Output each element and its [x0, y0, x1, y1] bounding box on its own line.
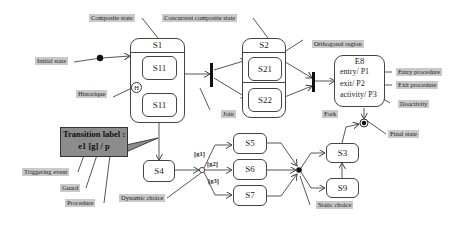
state-s11-top[interactable]: S11 — [142, 56, 177, 80]
do-activity: activity/ P3 — [340, 90, 377, 99]
state-label: S11 — [143, 94, 176, 116]
state-s21[interactable]: S21 — [248, 57, 282, 81]
history-pseudostate[interactable]: H — [131, 82, 142, 93]
annotation-concurrent-composite-state: Concurrent composite state — [162, 14, 237, 22]
state-label: S11 — [143, 57, 176, 79]
transition-label-syntax: e1 [g] / p — [61, 140, 127, 152]
state-s11-bottom[interactable]: S11 — [142, 93, 177, 117]
state-label: S7 — [234, 186, 266, 205]
state-title: E8 — [335, 56, 384, 66]
annotation-exit-procedure: Exit procedure — [396, 81, 438, 89]
guard-g1: [g1] — [194, 150, 205, 157]
annotation-do-activity: Doactivity — [398, 100, 429, 108]
state-label: S9 — [327, 179, 358, 197]
annotation-guard: Guard — [60, 184, 80, 192]
orthogonal-region-divider — [243, 82, 285, 83]
state-label: S4 — [144, 161, 174, 181]
annotation-procedure: Procedure — [65, 199, 95, 207]
annotation-triggering-event: Triggering event — [22, 168, 69, 176]
initial-state-dot — [97, 55, 103, 61]
annotation-final-state: Final state — [388, 130, 419, 138]
state-title: S2 — [243, 39, 285, 53]
exit-action: exit/ P2 — [340, 79, 365, 88]
state-s5[interactable]: S5 — [233, 133, 267, 154]
state-machine-diagram: S1 S11 S11 H S2 S21 S22 E8 entry/ P1 exi… — [0, 0, 465, 226]
annotation-fork: Fork — [322, 110, 338, 118]
annotation-join: Join — [221, 110, 236, 118]
state-s9[interactable]: S9 — [326, 178, 359, 198]
state-label: S3 — [327, 144, 358, 162]
state-s22[interactable]: S22 — [248, 88, 282, 112]
state-label: S22 — [249, 89, 281, 111]
annotation-composite-state: Composite state — [89, 14, 135, 22]
guard-g2: [g2] — [207, 160, 218, 167]
state-s4[interactable]: S4 — [143, 160, 175, 182]
state-title: S1 — [131, 39, 184, 53]
state-e8[interactable]: E8 entry/ P1 exit/ P2 activity/ P3 — [334, 55, 385, 107]
annotation-historique: Historique — [76, 90, 107, 98]
state-label: S21 — [249, 58, 281, 80]
state-label: S5 — [234, 134, 266, 153]
transition-label-box: Transition label : e1 [g] / p — [60, 127, 128, 157]
state-s6[interactable]: S6 — [233, 159, 267, 180]
state-label: S6 — [234, 160, 266, 179]
state-s7[interactable]: S7 — [233, 185, 267, 206]
annotation-entry-procedure: Entry procedure — [396, 68, 442, 76]
annotation-dynamic-choice: Dynamic choice — [119, 194, 165, 202]
annotation-initial-state: Initial state — [35, 57, 68, 65]
transition-label-title: Transition label : — [61, 128, 127, 140]
annotation-orthogonal-region: Orthogonal region — [312, 40, 364, 48]
annotation-static-choice: Static choice — [316, 201, 353, 209]
guard-g3: [g3] — [208, 177, 219, 184]
state-s3[interactable]: S3 — [326, 143, 359, 163]
entry-action: entry/ P1 — [340, 67, 369, 76]
